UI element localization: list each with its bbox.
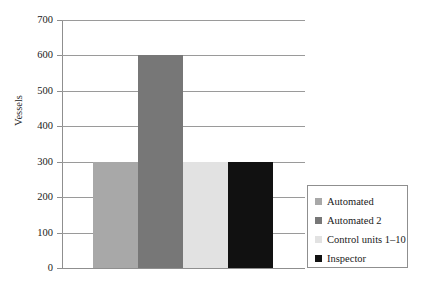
- grid-line: [62, 91, 305, 92]
- legend-item-label: Control units 1–10: [327, 234, 406, 245]
- grid-line: [62, 126, 305, 127]
- grid-line: [62, 268, 305, 269]
- legend-item-label: Automated 2: [327, 215, 382, 226]
- legend-swatch-icon: [315, 255, 322, 262]
- y-axis-tick-label: 500: [37, 86, 53, 97]
- legend-item-label: Inspector: [327, 253, 366, 264]
- y-axis-tick-label: 100: [37, 228, 53, 239]
- bar-inspector: [228, 162, 273, 268]
- bar-chart: Vessels 7006005004003002001000 Automated…: [0, 0, 432, 291]
- grid-line: [62, 55, 305, 56]
- legend-item[interactable]: Automated: [315, 192, 407, 211]
- bar-automated-2: [138, 55, 183, 268]
- y-axis-tick-label: 400: [37, 121, 53, 132]
- y-axis-tick-label: 300: [37, 157, 53, 168]
- y-axis-title: Vessels: [14, 95, 25, 126]
- bar-control-units-1-10: [183, 162, 228, 268]
- y-axis-tick-label: 700: [37, 15, 53, 26]
- y-axis-tick-label: 600: [37, 50, 53, 61]
- bar-automated: [93, 162, 138, 268]
- legend-swatch-icon: [315, 236, 322, 243]
- legend-item[interactable]: Inspector: [315, 249, 407, 268]
- legend: AutomatedAutomated 2Control units 1–10In…: [307, 185, 408, 268]
- legend-item-label: Automated: [327, 196, 374, 207]
- plot-area: [62, 20, 305, 268]
- y-axis-tick-label: 200: [37, 192, 53, 203]
- legend-swatch-icon: [315, 198, 322, 205]
- y-axis-tick-label: 0: [48, 263, 53, 274]
- legend-item[interactable]: Automated 2: [315, 211, 407, 230]
- legend-swatch-icon: [315, 217, 322, 224]
- legend-item[interactable]: Control units 1–10: [315, 230, 407, 249]
- grid-line: [62, 20, 305, 21]
